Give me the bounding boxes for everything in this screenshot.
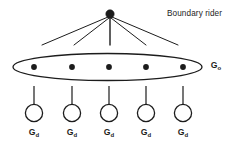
leaf-group-label-0: Gd xyxy=(29,128,39,137)
member-node-1[interactable] xyxy=(69,64,75,70)
leaf-circle-2[interactable] xyxy=(100,104,117,121)
leaf-group-label-1: Gd xyxy=(67,128,77,137)
member-node-0[interactable] xyxy=(31,64,37,70)
fan-edge-1 xyxy=(74,18,109,45)
overlay-group-label-base: G xyxy=(211,60,218,70)
leaf-group-label-2-subscript: d xyxy=(111,132,115,138)
leaf-group-label-2-base: G xyxy=(104,127,111,137)
connector-group xyxy=(34,86,183,104)
hierarchy-diagram: Boundary rider Go Gd Gd Gd Gd Gd xyxy=(0,0,239,147)
diagram-canvas xyxy=(0,0,239,147)
leaf-group-label-0-subscript: d xyxy=(36,132,40,138)
fan-edge-3 xyxy=(111,18,146,45)
leaf-group-label-3-base: G xyxy=(141,127,148,137)
member-node-group xyxy=(31,64,186,70)
leaf-group-label-1-base: G xyxy=(67,127,74,137)
leaf-circle-3[interactable] xyxy=(137,104,154,121)
fan-edge-0 xyxy=(42,17,108,45)
overlay-group-label-subscript: o xyxy=(218,65,222,71)
leaf-circle-0[interactable] xyxy=(25,104,42,121)
leaf-group-label-4-subscript: d xyxy=(185,132,189,138)
leaf-circle-4[interactable] xyxy=(174,104,191,121)
leaf-group-label-3-subscript: d xyxy=(148,132,152,138)
member-node-4[interactable] xyxy=(180,64,186,70)
fan-edge-4 xyxy=(112,17,178,45)
leaf-group-label-2: Gd xyxy=(104,128,114,137)
leaf-group-label-0-base: G xyxy=(29,127,36,137)
leaf-circle-group xyxy=(25,104,191,121)
boundary-rider-label: Boundary rider xyxy=(167,10,222,18)
leaf-circle-1[interactable] xyxy=(63,104,80,121)
fan-edge-group xyxy=(42,17,178,45)
boundary-rider-node[interactable] xyxy=(106,10,114,18)
leaf-group-label-3: Gd xyxy=(141,128,151,137)
leaf-group-label-4-base: G xyxy=(178,127,185,137)
leaf-group-label-1-subscript: d xyxy=(74,132,78,138)
leaf-group-label-4: Gd xyxy=(178,128,188,137)
overlay-group-label: Go xyxy=(211,61,221,70)
member-node-2[interactable] xyxy=(106,64,112,70)
member-node-3[interactable] xyxy=(143,64,149,70)
